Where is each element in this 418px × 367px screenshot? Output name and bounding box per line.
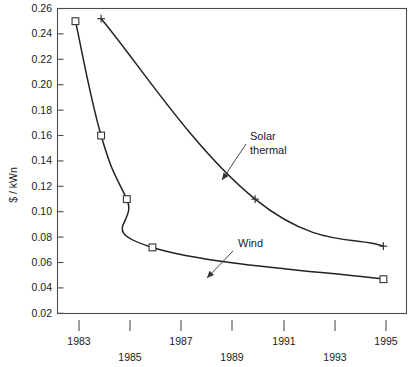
y-tick-label-0.22: 0.22 xyxy=(32,53,53,65)
series-line xyxy=(75,21,383,279)
y-tick-label-0.06: 0.06 xyxy=(32,256,53,268)
series-layer xyxy=(72,15,387,283)
data-point-marker xyxy=(380,276,387,283)
series-solar-thermal xyxy=(97,15,387,250)
data-point-marker xyxy=(380,242,388,250)
annotation-wind: Wind xyxy=(207,237,263,278)
chart-figure: 0.26 0.24 0.22 0.20 0.18 0.16 0.14 0.12 … xyxy=(0,0,418,367)
y-tick-label-0.14: 0.14 xyxy=(32,154,53,166)
x-axis-ticks xyxy=(79,320,386,331)
data-point-marker xyxy=(72,18,79,25)
y-tick-label-0.02: 0.02 xyxy=(32,307,53,319)
annotation-solar-line2: thermal xyxy=(250,144,287,156)
data-point-marker xyxy=(149,244,156,251)
annotation-solar-line1: Solar xyxy=(250,130,276,142)
y-tick-label-0.20: 0.20 xyxy=(32,78,53,90)
y-axis-ticks xyxy=(58,9,64,314)
series-wind xyxy=(72,18,387,283)
y-tick-label-0.18: 0.18 xyxy=(32,104,53,116)
x-tick-label-1995: 1995 xyxy=(374,335,398,347)
y-axis-title: $ / kWn xyxy=(7,167,19,203)
y-tick-label-0.12: 0.12 xyxy=(32,180,53,192)
x-tick-label-1989: 1989 xyxy=(220,351,244,363)
series-line xyxy=(101,19,383,246)
x-tick-label-1987: 1987 xyxy=(169,335,193,347)
data-point-marker xyxy=(98,132,105,139)
y-tick-label-0.16: 0.16 xyxy=(32,129,53,141)
annotation-wind-label: Wind xyxy=(238,237,263,249)
x-tick-label-1985: 1985 xyxy=(118,351,142,363)
y-tick-label-0.24: 0.24 xyxy=(32,27,53,39)
y-tick-label-0.10: 0.10 xyxy=(32,205,53,217)
data-point-marker xyxy=(123,196,130,203)
y-tick-label-0.08: 0.08 xyxy=(32,231,53,243)
y-tick-label-0.04: 0.04 xyxy=(32,281,53,293)
y-tick-label-0.26: 0.26 xyxy=(32,2,53,14)
annotation-solar-thermal: Solar thermal xyxy=(222,130,287,180)
x-tick-label-1993: 1993 xyxy=(323,351,347,363)
x-tick-label-1991: 1991 xyxy=(272,335,296,347)
line-chart: 0.26 0.24 0.22 0.20 0.18 0.16 0.14 0.12 … xyxy=(0,0,418,367)
x-tick-label-1983: 1983 xyxy=(67,335,91,347)
